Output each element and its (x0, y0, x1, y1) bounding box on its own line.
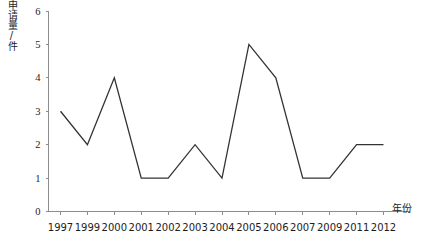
x-tick-label: 2000 (101, 222, 127, 233)
x-tick-label: 1999 (74, 222, 100, 233)
x-tick-label: 2002 (155, 222, 181, 233)
x-tick-label: 2001 (128, 222, 154, 233)
y-axis-tick-labels: 0123456 (35, 6, 41, 218)
x-axis (49, 212, 411, 215)
x-tick-label: 2004 (209, 222, 235, 233)
data-series-line (61, 44, 384, 178)
y-axis-title: 申请量/件 (1, 0, 17, 51)
line-chart: 0123456 申请量/件 年份 19971999200020012002200… (0, 0, 437, 246)
y-tick-label: 2 (35, 139, 40, 150)
x-tick-label: 2012 (371, 222, 397, 233)
y-tick-label: 5 (35, 39, 40, 50)
x-tick-label: 2009 (317, 222, 343, 233)
x-tick-label: 2011 (344, 222, 370, 233)
y-tick-label: 0 (35, 206, 40, 217)
x-tick-label: 1997 (48, 222, 74, 233)
y-tick-label: 4 (35, 72, 41, 83)
x-tick-label: 2007 (290, 222, 316, 233)
x-tick-label: 2005 (236, 222, 262, 233)
y-tick-label: 3 (35, 106, 40, 117)
x-tick-label: 2003 (182, 222, 208, 233)
x-axis-title: 年份 (392, 200, 412, 215)
y-tick-label: 1 (35, 173, 40, 184)
x-tick-label: 2006 (263, 222, 289, 233)
y-axis (46, 11, 49, 212)
chart-canvas: 0123456 (0, 0, 437, 246)
y-tick-label: 6 (35, 6, 40, 17)
